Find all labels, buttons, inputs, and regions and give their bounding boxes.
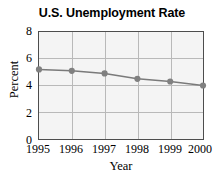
plot-area [38,31,204,140]
data-point [200,82,206,88]
y-tick-label: 2 [6,107,32,119]
x-axis-label: Year [38,159,204,174]
data-point [36,66,42,72]
data-series-line [39,32,203,139]
data-point [102,70,108,76]
data-point [134,76,140,82]
x-tick-label: 2000 [177,143,223,155]
y-tick-label: 6 [6,52,32,64]
series-polyline [39,69,203,85]
chart-figure: U.S. Unemployment Rate Percent Year 8 6 … [0,0,224,183]
y-tick-label: 8 [6,25,32,37]
data-point [167,78,173,84]
chart-title: U.S. Unemployment Rate [0,6,224,20]
data-point [69,68,75,74]
y-tick-label: 4 [6,79,32,91]
